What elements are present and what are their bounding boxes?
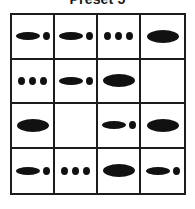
grid-cell-r4-c4[interactable] (141, 149, 184, 194)
grid-cell-r1-c3[interactable] (98, 15, 141, 60)
cell-pattern-ellipse-plus-dot (102, 121, 136, 129)
cell-pattern-single-large-ellipse (147, 30, 179, 43)
ellipse-medium-blob-icon (16, 32, 40, 40)
ellipse-large-blob-icon (103, 74, 135, 87)
dot-small-blob-icon (86, 32, 93, 40)
cell-pattern-three-dots (104, 32, 133, 40)
ellipse-large-blob-icon (103, 164, 135, 177)
cell-pattern-single-large-ellipse (147, 119, 179, 132)
grid-cell-r2-c3[interactable] (98, 60, 141, 105)
grid-cell-r2-c2[interactable] (55, 60, 98, 105)
grid-cell-r3-c3[interactable] (98, 104, 141, 149)
ellipse-large-blob-icon (147, 119, 179, 132)
grid-cell-r4-c1[interactable] (12, 149, 55, 194)
pattern-grid (10, 13, 186, 195)
dot-small-blob-icon (61, 167, 68, 175)
dot-small-blob-icon (72, 167, 79, 175)
grid-cell-r1-c4[interactable] (141, 15, 184, 60)
cell-pattern-ellipse-plus-dot (59, 32, 93, 40)
dot-small-blob-icon (115, 32, 122, 40)
dot-small-blob-icon (126, 32, 133, 40)
cell-pattern-single-large-ellipse (103, 74, 135, 87)
dot-small-blob-icon (129, 121, 136, 129)
dot-small-blob-icon (18, 77, 25, 85)
grid-cell-r4-c3[interactable] (98, 149, 141, 194)
ellipse-medium-blob-icon (146, 167, 170, 175)
grid-cell-r3-c2[interactable] (55, 104, 98, 149)
ellipse-medium-blob-icon (59, 77, 83, 85)
ellipse-medium-blob-icon (59, 32, 83, 40)
cell-pattern-single-large-ellipse (17, 119, 49, 132)
dot-small-blob-icon (29, 77, 36, 85)
cell-pattern-ellipse-plus-dot (146, 167, 180, 175)
cell-pattern-ellipse-plus-dot (16, 167, 50, 175)
grid-cell-r1-c2[interactable] (55, 15, 98, 60)
dot-small-blob-icon (43, 32, 50, 40)
grid-cell-r3-c4[interactable] (141, 104, 184, 149)
cell-pattern-three-dots (18, 77, 47, 85)
dot-small-blob-icon (86, 77, 93, 85)
dot-small-blob-icon (104, 32, 111, 40)
grid-cell-r1-c1[interactable] (12, 15, 55, 60)
grid-cell-r3-c1[interactable] (12, 104, 55, 149)
dot-small-blob-icon (40, 77, 47, 85)
ellipse-medium-blob-icon (16, 167, 40, 175)
ellipse-large-blob-icon (17, 119, 49, 132)
dot-small-blob-icon (43, 167, 50, 175)
grid-cell-r2-c4[interactable] (141, 60, 184, 105)
grid-cell-r2-c1[interactable] (12, 60, 55, 105)
dot-small-blob-icon (83, 167, 90, 175)
grid-cell-r4-c2[interactable] (55, 149, 98, 194)
ellipse-large-blob-icon (147, 30, 179, 43)
cell-pattern-ellipse-plus-dot (59, 77, 93, 85)
cell-pattern-ellipse-plus-dot (16, 32, 50, 40)
ellipse-medium-blob-icon (102, 121, 126, 129)
dot-small-blob-icon (173, 167, 180, 175)
page-title: Preset 5 (0, 0, 195, 7)
cell-pattern-single-large-ellipse (103, 164, 135, 177)
cell-pattern-three-dots (61, 167, 90, 175)
